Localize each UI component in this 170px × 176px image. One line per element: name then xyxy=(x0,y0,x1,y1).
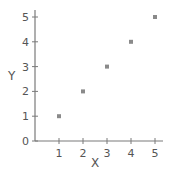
data-point xyxy=(57,114,61,118)
y-axis-label: Y xyxy=(7,69,16,83)
x-tick-label: 4 xyxy=(128,147,135,160)
y-tick-label: 5 xyxy=(22,11,29,24)
data-points xyxy=(57,15,157,118)
data-point xyxy=(81,89,85,93)
y-tick-label: 0 xyxy=(22,135,29,148)
y-tick-label: 4 xyxy=(22,36,29,49)
axes xyxy=(35,10,163,141)
x-tick-label: 2 xyxy=(80,147,87,160)
data-point xyxy=(153,15,157,19)
data-point xyxy=(105,65,109,69)
y-tick-label: 3 xyxy=(22,61,29,74)
x-tick-label: 3 xyxy=(104,147,111,160)
scatter-chart: 012345 12345 Y X xyxy=(0,0,170,176)
x-axis-label: X xyxy=(91,156,99,170)
y-tick-label: 1 xyxy=(22,110,29,123)
x-tick-label: 5 xyxy=(152,147,159,160)
x-tick-label: 1 xyxy=(56,147,63,160)
data-point xyxy=(129,40,133,44)
y-tick-label: 2 xyxy=(22,85,29,98)
